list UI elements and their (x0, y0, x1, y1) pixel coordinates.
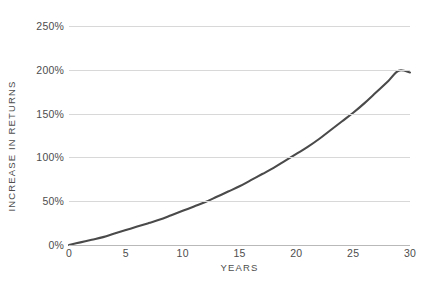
line-chart: INCREASE IN RETURNS 0%50%100%150%200%250… (0, 0, 425, 292)
gridline-150 (69, 114, 410, 115)
y-axis-tick-labels: 0%50%100%150%200%250% (28, 0, 64, 292)
x-tick-label: 5 (123, 247, 129, 259)
y-tick-label: 200% (28, 64, 64, 76)
returns-curve (69, 26, 410, 245)
x-tick-label: 10 (177, 247, 189, 259)
x-tick-label: 0 (66, 247, 72, 259)
x-axis-tick-labels: 051015202530 (69, 247, 410, 263)
x-axis-title: YEARS (69, 262, 410, 273)
x-tick-label: 25 (347, 247, 359, 259)
y-tick-label: 250% (28, 20, 64, 32)
y-tick-label: 150% (28, 108, 64, 120)
y-axis-title: INCREASE IN RETURNS (0, 0, 22, 292)
gridline-200 (69, 70, 410, 71)
y-tick-label: 100% (28, 151, 64, 163)
x-tick-label: 20 (290, 247, 302, 259)
x-tick-label: 30 (404, 247, 416, 259)
plot-area (69, 26, 410, 245)
gridline-0 (69, 245, 410, 246)
gridline-100 (69, 157, 410, 158)
x-tick-label: 15 (233, 247, 245, 259)
y-tick-label: 50% (28, 195, 64, 207)
y-tick-label: 0% (28, 239, 64, 251)
gridline-250 (69, 26, 410, 27)
gridline-50 (69, 201, 410, 202)
